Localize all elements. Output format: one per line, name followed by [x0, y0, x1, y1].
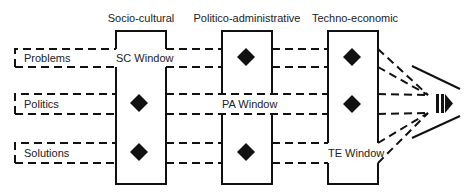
stream-label-problems: Problems [24, 52, 71, 64]
sc-window-box-bottom [116, 67, 166, 184]
te-window-box-bottom [328, 163, 378, 184]
stream-label-politics: Politics [24, 98, 59, 110]
diamond-icon [237, 143, 255, 161]
column-title-socio-cultural: Socio-cultural [108, 12, 175, 24]
te-window-box-top [328, 31, 378, 143]
window-label-te: TE Window [328, 147, 384, 159]
window-label-pa: PA Window [222, 98, 277, 110]
diamond-icon [130, 94, 148, 112]
sc-window-box-top [116, 31, 166, 49]
diamond-icon [343, 48, 361, 66]
stream-label-solutions: Solutions [24, 147, 70, 159]
diamond-icon [130, 143, 148, 161]
diamond-icon [343, 95, 361, 113]
window-label-sc: SC Window [116, 52, 174, 64]
multiple-streams-window-diagram: Socio-cultural Politico-administrative T… [0, 0, 468, 193]
column-title-politico-administrative: Politico-administrative [194, 12, 301, 24]
diamond-icon [237, 48, 255, 66]
column-title-techno-economic: Techno-economic [312, 12, 399, 24]
policy-output-icon [436, 94, 453, 113]
